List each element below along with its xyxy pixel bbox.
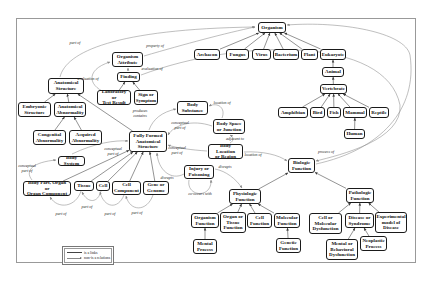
legend: is a links non-is a relations bbox=[62, 246, 114, 265]
node-acquired: Acquired Abnormality bbox=[69, 130, 102, 145]
isa-edge-pathologic-biologic-function bbox=[315, 172, 346, 188]
edge-label-17: disrupts bbox=[219, 165, 232, 170]
isa-edge-eukaryote-organism bbox=[284, 33, 320, 49]
node-ffas: Fully Formed Anatomical Structure bbox=[129, 131, 167, 152]
edge-label-13: part of bbox=[82, 205, 93, 210]
node-embryonic: Embryonic Structure bbox=[18, 102, 51, 117]
node-bacterium: Bacterium bbox=[273, 49, 299, 60]
node-cell-function: Cell Function bbox=[247, 213, 272, 228]
node-disease-syndrome: Disease or Syndrome bbox=[345, 213, 374, 228]
isa-edge-plant-organism bbox=[280, 33, 302, 49]
node-organism-attribute: Organism Attribute bbox=[112, 52, 143, 67]
isa-edge-molecular-function-physiologic bbox=[258, 204, 274, 213]
node-amphibian: Amphibian bbox=[278, 107, 308, 118]
node-physiologic: Physiologic Function bbox=[229, 189, 261, 204]
isa-edge-reptile-vertebrate bbox=[343, 94, 369, 107]
edge-label-10: conceptual part of bbox=[104, 147, 122, 156]
relation-edge-20 bbox=[287, 24, 411, 164]
isa-line-icon bbox=[67, 251, 82, 255]
node-lab-test: Laboratory or Test Result bbox=[97, 90, 131, 105]
edge-label-18: co-occurs with bbox=[188, 192, 212, 197]
node-body-location: Body Location or Region bbox=[208, 144, 243, 159]
isa-edge-organ-tissue-function-physiologic bbox=[238, 204, 242, 212]
isa-edge-amphibian-vertebrate bbox=[302, 94, 324, 107]
relation-edge-15 bbox=[126, 195, 153, 208]
isa-edge-embryonic-anatomical-structure bbox=[45, 94, 56, 102]
node-tissue: Tissue bbox=[74, 181, 94, 191]
isa-edge-bacterium-organism bbox=[275, 33, 283, 49]
node-cell: Cell bbox=[96, 181, 110, 191]
isa-edge-congenital-anat-abnormality bbox=[55, 117, 65, 130]
node-body-system: Body System bbox=[58, 156, 85, 166]
node-genetic-function: Genetic Function bbox=[276, 238, 301, 253]
node-finding: Finding bbox=[117, 72, 140, 82]
isa-edge-physiologic-biologic-function bbox=[259, 173, 288, 189]
node-body-part: Body Part, Organ or Organ Component bbox=[23, 181, 71, 196]
isa-edge-acquired-anat-abnormality bbox=[74, 117, 81, 130]
isa-edge-anat-abnormality-anatomical-structure bbox=[67, 94, 68, 102]
node-biologic-function: Biologic Function bbox=[288, 158, 315, 173]
node-virus: Virus bbox=[252, 49, 271, 60]
node-molecular-function: Molecular Function bbox=[274, 213, 300, 228]
edge-label-7: adjacent to bbox=[226, 137, 244, 142]
node-gene: Gene or Genome bbox=[143, 181, 169, 195]
node-cell-component: Cell Component bbox=[112, 181, 141, 195]
legend-item-nonisa: non-is a relations bbox=[67, 256, 109, 262]
isa-edge-cell-function-physiologic bbox=[250, 204, 255, 213]
node-injury: Injury or Poisoning bbox=[184, 165, 214, 179]
edge-label-9: conceptual part of bbox=[168, 146, 186, 155]
edge-label-12: part of bbox=[56, 212, 67, 217]
edge-label-2: evaluation of bbox=[78, 77, 99, 82]
edge-label-11: conceptual part of bbox=[18, 164, 36, 173]
node-sign-symptom: Sign or Symptom bbox=[134, 90, 158, 105]
relation-edge-16 bbox=[157, 153, 184, 176]
node-organism-function: Organism Function bbox=[191, 213, 219, 228]
isa-edge-archaeon-organism bbox=[220, 33, 259, 49]
edge-label-8: conceptual part of bbox=[171, 121, 189, 130]
isa-edge-fungus-organism bbox=[245, 33, 265, 49]
edge-label-16: disrupts bbox=[161, 176, 174, 181]
relation-edge-13 bbox=[82, 191, 101, 201]
node-mammal: Mammal bbox=[343, 107, 367, 118]
isa-edge-virus-organism bbox=[264, 33, 270, 49]
edge-label-6: location of bbox=[213, 101, 230, 106]
node-fungus: Fungus bbox=[226, 49, 249, 60]
node-bird: Bird bbox=[310, 107, 325, 118]
node-organ-tissue-function: Organ or Tissue Function bbox=[220, 212, 246, 233]
edge-label-15: part of bbox=[132, 211, 143, 216]
node-fish: Fish bbox=[327, 107, 341, 118]
edge-label-0: part of bbox=[70, 41, 81, 46]
isa-edge-bird-vertebrate bbox=[321, 94, 330, 107]
isa-edge-sign-symptom-finding bbox=[133, 82, 140, 90]
edge-label-3: evaluation of bbox=[142, 67, 163, 72]
node-body-substance: Body Substance bbox=[177, 101, 208, 115]
isa-edge-cell-mol-dys-pathologic bbox=[338, 203, 350, 213]
umls-semantic-network-diagram: is a links non-is a relations OrganismAr… bbox=[0, 0, 426, 284]
node-mental-behavioral: Mental or Behavioral Dysfunction bbox=[326, 239, 358, 260]
node-eukaryote: Eukaryote bbox=[320, 49, 346, 60]
edge-label-1: property of bbox=[146, 44, 164, 49]
isa-edge-mental-behavioral-disease-syndrome bbox=[348, 228, 355, 239]
legend-inner: is a links non-is a relations bbox=[64, 248, 112, 263]
node-vertebrate: Vertebrate bbox=[320, 84, 347, 94]
nonisa-arrow-icon bbox=[67, 256, 82, 260]
node-mental-process: Mental Process bbox=[193, 239, 217, 254]
node-neoplastic: Neoplastic Process bbox=[360, 236, 387, 251]
node-organism: Organism bbox=[258, 22, 286, 33]
isa-edge-gene-ffas bbox=[150, 152, 155, 181]
isa-edge-genetic-function-molecular-function bbox=[287, 228, 288, 238]
node-congenital: Congenital Abnormality bbox=[33, 130, 66, 145]
node-human: Human bbox=[344, 129, 365, 139]
node-exp-model: Experimental model of Disease bbox=[375, 212, 407, 233]
node-anat-abnormality: Anatomical Abnormality bbox=[54, 102, 86, 117]
edge-label-14: part of bbox=[105, 212, 116, 217]
node-animal: Animal bbox=[322, 67, 344, 77]
node-cell-mol-dys: Cell or Molecular Dysfunction bbox=[309, 213, 342, 234]
relation-edge-6 bbox=[209, 105, 223, 118]
legend-isa-label: is a links bbox=[84, 251, 98, 255]
edge-label-5: produces contains bbox=[133, 109, 148, 118]
node-reptile: Reptile bbox=[369, 107, 389, 118]
edge-label-20: process of bbox=[318, 150, 334, 155]
isa-edge-cell-component-ffas bbox=[130, 152, 143, 181]
node-body-space: Body Space or Junction bbox=[213, 119, 245, 134]
